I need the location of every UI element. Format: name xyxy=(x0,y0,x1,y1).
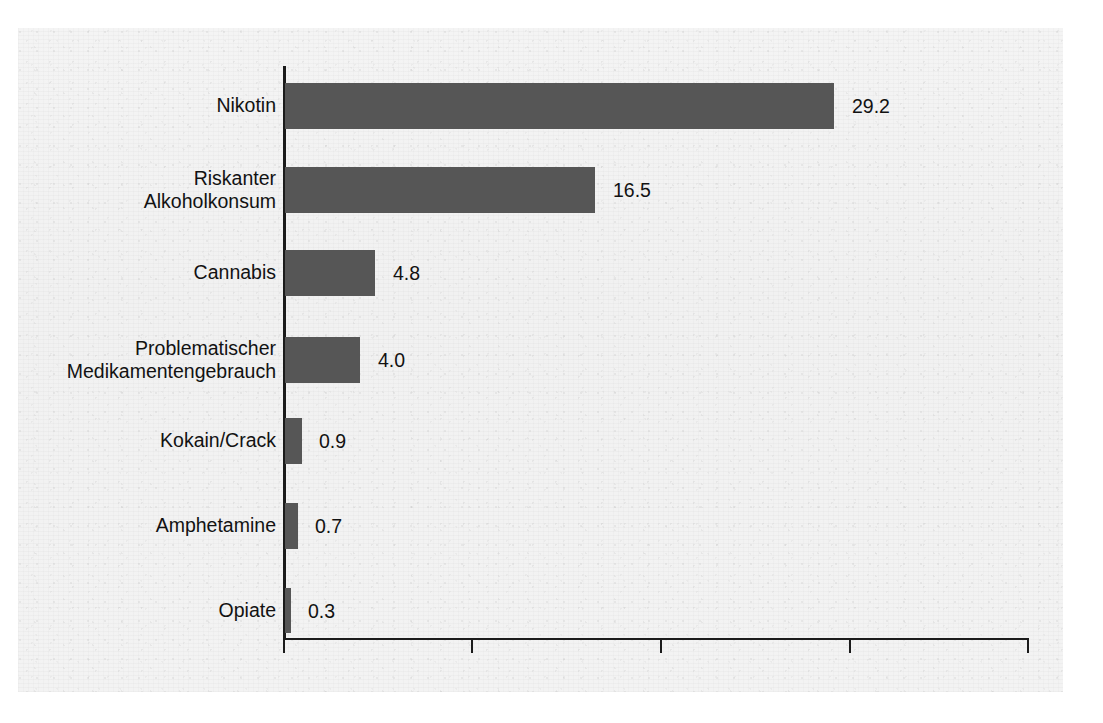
bar xyxy=(285,167,595,213)
bar-row: Nikotin 29.2 xyxy=(0,83,1103,129)
value-label: 4.0 xyxy=(378,337,405,383)
x-axis-line xyxy=(283,638,1029,640)
category-label: Nikotin xyxy=(36,94,276,117)
x-axis-tick-2 xyxy=(660,640,662,653)
value-label: 29.2 xyxy=(852,83,890,129)
bar-row: Kokain/Crack 0.9 xyxy=(0,418,1103,464)
x-axis-tick-3 xyxy=(849,640,851,653)
x-axis-tick-1 xyxy=(471,640,473,653)
x-axis-tick-4 xyxy=(1027,640,1029,653)
bar xyxy=(285,418,302,464)
bar-row: Problematischer Medikamentengebrauch 4.0 xyxy=(0,337,1103,383)
category-label: Cannabis xyxy=(36,261,276,284)
category-label: Kokain/Crack xyxy=(36,429,276,452)
value-label: 0.3 xyxy=(308,588,335,634)
category-label: Problematischer Medikamentengebrauch xyxy=(36,337,276,383)
bar-row: Riskanter Alkoholkonsum 16.5 xyxy=(0,167,1103,213)
bar xyxy=(285,337,360,383)
bar-row: Opiate 0.3 xyxy=(0,588,1103,634)
bar xyxy=(285,250,375,296)
category-label: Amphetamine xyxy=(36,514,276,537)
chart-figure: Nikotin 29.2 Riskanter Alkoholkonsum 16.… xyxy=(0,0,1103,723)
bar-row: Cannabis 4.8 xyxy=(0,250,1103,296)
bar xyxy=(285,588,291,633)
bar xyxy=(285,503,298,549)
bar-row: Amphetamine 0.7 xyxy=(0,503,1103,549)
category-label: Opiate xyxy=(36,599,276,622)
bar xyxy=(285,83,834,129)
x-axis-tick-0 xyxy=(283,640,285,653)
plot-area: Nikotin 29.2 Riskanter Alkoholkonsum 16.… xyxy=(0,0,1103,723)
value-label: 16.5 xyxy=(613,167,651,213)
value-label: 0.7 xyxy=(315,503,342,549)
category-label: Riskanter Alkoholkonsum xyxy=(36,167,276,213)
value-label: 4.8 xyxy=(393,250,420,296)
value-label: 0.9 xyxy=(319,418,346,464)
